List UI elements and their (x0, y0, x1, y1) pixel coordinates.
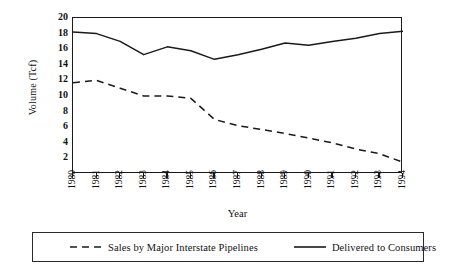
y-axis-title: Volume (Tcf) (27, 28, 38, 148)
x-tick-label: 1982 (114, 170, 124, 200)
y-axis-tick-labels: 2468101214161820 (44, 17, 68, 173)
y-tick-label: 12 (48, 74, 68, 84)
x-tick-label: 1985 (185, 170, 195, 200)
y-tick-label: 20 (48, 12, 68, 22)
x-tick-label: 1987 (232, 170, 242, 200)
chart-legend: Sales by Major Interstate Pipelines Deli… (32, 232, 424, 262)
legend-item-delivered-to-consumers: Delivered to Consumers (294, 242, 436, 253)
solid-line-icon (294, 243, 326, 251)
legend-entries: Sales by Major Interstate Pipelines Deli… (33, 233, 423, 261)
x-tick-label: 1983 (138, 170, 148, 200)
x-tick-label: 1989 (279, 170, 289, 200)
dashed-line-icon (70, 243, 102, 251)
y-tick-label: 18 (48, 28, 68, 38)
y-tick-label: 10 (48, 90, 68, 100)
x-tick-label: 1990 (303, 170, 313, 200)
legend-item-sales-by-major-interstate-pipelines: Sales by Major Interstate Pipelines (70, 242, 258, 253)
x-tick-label: 1986 (208, 170, 218, 200)
x-tick-label: 1993 (373, 170, 383, 200)
y-tick-label: 6 (48, 121, 68, 131)
x-axis-title: Year (72, 208, 403, 219)
y-tick-label: 8 (48, 106, 68, 116)
chart-figure: Volume (Tcf) 2468101214161820 1980198119… (0, 0, 456, 280)
legend-label-delivered: Delivered to Consumers (332, 242, 436, 253)
x-axis-tick-labels: 1980198119821983198419851986198719881989… (72, 180, 403, 208)
x-tick-label: 1994 (397, 170, 407, 200)
y-tick-label: 14 (48, 59, 68, 69)
x-tick-label: 1984 (161, 170, 171, 200)
y-tick-label: 2 (48, 152, 68, 162)
plot-area (72, 17, 402, 173)
y-tick-label: 4 (48, 137, 68, 147)
data-lines (73, 18, 403, 174)
x-tick-label: 1988 (256, 170, 266, 200)
y-tick-label: 16 (48, 43, 68, 53)
line-sales-by-major-interstate-pipelines (73, 80, 403, 162)
x-tick-label: 1980 (67, 170, 77, 200)
legend-label-sales: Sales by Major Interstate Pipelines (108, 242, 258, 253)
x-tick-label: 1992 (350, 170, 360, 200)
line-delivered-to-consumers (73, 31, 403, 59)
x-tick-label: 1991 (326, 170, 336, 200)
x-tick-label: 1981 (91, 170, 101, 200)
